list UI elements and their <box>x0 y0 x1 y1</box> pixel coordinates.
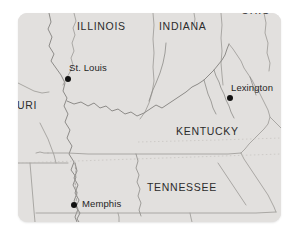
state-label-kentucky: KENTUCKY <box>176 125 239 137</box>
city-dot-lexington[interactable] <box>227 95 233 101</box>
state-label-missouri: URI <box>18 99 37 111</box>
map-panel[interactable]: ILLINOIS INDIANA OHIO URI KENTUCKY TENNE… <box>18 13 281 222</box>
city-dot-st-louis[interactable] <box>65 76 71 82</box>
state-label-tennessee: TENNESSEE <box>147 181 217 193</box>
state-label-ohio: OHIO <box>241 13 271 16</box>
state-label-indiana: INDIANA <box>159 20 207 32</box>
city-dot-memphis[interactable] <box>71 202 77 208</box>
state-label-illinois: ILLINOIS <box>77 20 126 32</box>
city-label-lexington: Lexington <box>231 82 273 93</box>
city-label-st-louis: St. Louis <box>69 62 107 73</box>
city-label-memphis: Memphis <box>82 198 121 209</box>
map-page: ILLINOIS INDIANA OHIO URI KENTUCKY TENNE… <box>0 0 301 240</box>
